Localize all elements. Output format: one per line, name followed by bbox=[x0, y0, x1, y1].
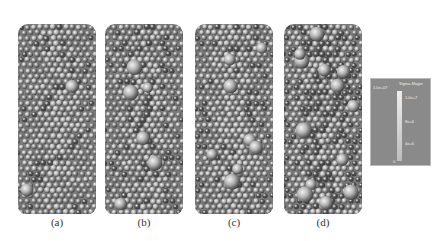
legend-color-bar bbox=[397, 91, 402, 161]
panel-label-c: (c) bbox=[195, 216, 273, 228]
particle-cylinder-c bbox=[195, 24, 273, 214]
legend-tick-2: 4e+6 bbox=[405, 141, 414, 146]
legend-title: Sigma-Magni bbox=[399, 81, 423, 86]
legend-tick-1: 8e+6 bbox=[405, 119, 414, 124]
color-legend: 1.0e+07 Sigma-Magni 1.0e+7 8e+6 4e+6 0 bbox=[370, 78, 431, 166]
panel-label-b: (b) bbox=[105, 216, 183, 228]
legend-tick-3: 0 bbox=[393, 159, 395, 164]
legend-tick-0: 1.0e+7 bbox=[405, 95, 417, 100]
legend-corner-value: 1.0e+07 bbox=[373, 85, 388, 90]
particle-cylinder-d bbox=[284, 24, 362, 214]
particle-cylinder-a bbox=[18, 24, 96, 214]
panel-label-d: (d) bbox=[284, 216, 362, 228]
panel-label-a: (a) bbox=[18, 216, 96, 228]
particle-cylinder-b bbox=[105, 24, 183, 214]
